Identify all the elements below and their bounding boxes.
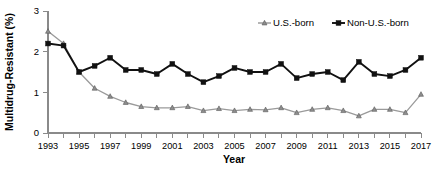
data-point-marker — [325, 70, 330, 75]
x-axis-ticks: 1993199519971999200120032005200720092011… — [38, 133, 431, 151]
data-point-marker — [154, 72, 159, 77]
legend-square-icon — [336, 21, 341, 26]
x-tick-label: 2009 — [286, 141, 306, 151]
line-chart: Multidrug-Resistant (%) 0123 19931995199… — [0, 0, 432, 183]
series-line — [48, 31, 421, 116]
x-tick-label: 1999 — [131, 141, 151, 151]
y-axis-ticks: 0123 — [34, 5, 48, 138]
data-point-marker — [388, 74, 393, 79]
data-point-marker — [403, 68, 408, 73]
series-non-us-born — [46, 41, 424, 84]
y-tick-label: 2 — [34, 46, 39, 57]
legend-item-non-us-born[interactable]: Non-U.S.-born — [332, 17, 409, 28]
y-axis-title-text: Multidrug-Resistant (%) — [3, 13, 15, 131]
data-point-marker — [201, 80, 206, 85]
y-tick-label: 0 — [34, 127, 39, 138]
data-point-marker — [185, 72, 190, 77]
x-tick-label: 2011 — [318, 141, 338, 151]
data-point-marker — [419, 92, 424, 97]
data-point-marker — [419, 55, 424, 60]
data-point-marker — [77, 70, 82, 75]
data-point-marker — [279, 61, 284, 66]
data-point-marker — [46, 29, 51, 34]
x-tick-label: 1993 — [38, 141, 58, 151]
x-tick-label: 2003 — [193, 141, 213, 151]
data-point-marker — [92, 64, 97, 69]
data-point-marker — [46, 41, 51, 46]
x-tick-label: 1997 — [100, 141, 120, 151]
chart-legend: U.S.-bornNon-U.S.-born — [258, 17, 409, 28]
chart-container: Multidrug-Resistant (%) 0123 19931995199… — [0, 0, 432, 183]
x-tick-label: 2007 — [255, 141, 275, 151]
series-line — [48, 44, 421, 83]
data-point-marker — [217, 74, 222, 79]
x-axis-title-text: Year — [223, 153, 245, 165]
data-point-marker — [248, 70, 253, 75]
data-point-marker — [263, 70, 268, 75]
data-point-marker — [61, 43, 66, 48]
x-tick-label: 2005 — [224, 141, 244, 151]
legend-label: Non-U.S.-born — [347, 17, 409, 28]
x-tick-label: 2001 — [162, 141, 182, 151]
data-point-marker — [372, 72, 377, 77]
data-point-marker — [123, 68, 128, 73]
x-tick-label: 2015 — [380, 141, 400, 151]
x-tick-label: 1995 — [69, 141, 89, 151]
data-point-marker — [356, 59, 361, 64]
series-us-born — [46, 29, 424, 118]
data-point-marker — [310, 72, 315, 77]
y-axis-title: Multidrug-Resistant (%) — [3, 13, 15, 131]
data-point-marker — [139, 68, 144, 73]
y-tick-label: 1 — [34, 87, 39, 98]
data-point-marker — [341, 78, 346, 83]
legend-label: U.S.-born — [273, 17, 314, 28]
legend-item-us-born[interactable]: U.S.-born — [258, 17, 314, 28]
data-point-marker — [170, 61, 175, 66]
x-tick-label: 2013 — [349, 141, 369, 151]
x-tick-label: 2017 — [411, 141, 431, 151]
series-layer — [46, 29, 424, 118]
y-tick-label: 3 — [34, 5, 39, 16]
data-point-marker — [232, 66, 237, 71]
data-point-marker — [108, 55, 113, 60]
data-point-marker — [294, 76, 299, 81]
